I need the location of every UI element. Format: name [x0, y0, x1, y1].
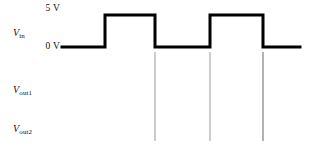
signal-label-vout2: Vout2: [13, 124, 32, 134]
waveform-canvas: [0, 0, 314, 152]
vin-waveform-trace: [62, 15, 300, 47]
vout2-subscript: out2: [19, 128, 32, 136]
vout1-subscript: out1: [19, 89, 32, 97]
signal-label-vout1: Vout1: [13, 85, 32, 95]
timing-diagram-figure: 5 V 0 V Vin Vout1 Vout2: [0, 0, 314, 152]
signal-label-vin: Vin: [13, 28, 25, 38]
level-label-low: 0 V: [30, 42, 60, 52]
level-label-high: 5 V: [30, 4, 60, 14]
vin-subscript: in: [19, 32, 25, 40]
guide-line-group: [155, 52, 263, 141]
